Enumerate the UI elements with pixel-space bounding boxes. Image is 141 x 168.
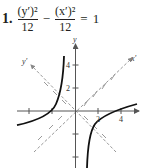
y-tick-label-2: 2 (66, 84, 70, 93)
hyperbola-branch-lower-right (87, 104, 137, 168)
hyperbola-plot: y y′ x′ 4 2 2 4 (0, 0, 141, 168)
x-tick-label-4: 4 (119, 115, 123, 124)
y-prime-label: y′ (21, 57, 28, 66)
x-tick-label-2: 2 (96, 115, 100, 124)
x-prime-axis (34, 58, 132, 152)
rotated-axes (31, 58, 132, 152)
y-axis-label: y (72, 35, 77, 44)
hyperbola-branch-upper-left (17, 56, 64, 125)
x-prime-label: x′ (130, 54, 137, 63)
y-prime-axis (31, 65, 116, 152)
y-tick-label-4: 4 (66, 61, 70, 70)
main-axes (17, 44, 139, 168)
